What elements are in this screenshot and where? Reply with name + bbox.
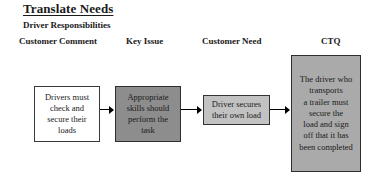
arrow-right-icon-issue-to-need: [181, 105, 203, 114]
column-header-customer-comment: Customer Comment: [19, 36, 97, 46]
arrow-right-icon-comment-to-issue: [100, 105, 115, 114]
flow-box-ctq: The driver who transports a trailer must…: [291, 55, 361, 172]
column-header-key-issue: Key Issue: [126, 36, 163, 46]
flow-box-ctq-text: The driver who transports a trailer must…: [295, 74, 357, 152]
column-header-customer-need: Customer Need: [202, 36, 262, 46]
flow-box-customer-comment: Drivers must check and secure their load…: [34, 86, 100, 142]
arrow-right-icon-need-to-ctq: [270, 105, 291, 114]
page-title: Translate Needs: [23, 1, 113, 17]
page-subtitle: Driver Responsibilities: [23, 20, 111, 30]
arrow-head: [197, 106, 202, 114]
diagram-canvas: Translate Needs Driver Responsibilities …: [0, 0, 384, 181]
arrow-head: [109, 106, 114, 114]
arrow-shaft: [270, 109, 286, 110]
arrow-head: [285, 106, 290, 114]
flow-box-key-issue: Appropriate skills should perform the ta…: [115, 86, 181, 142]
column-header-ctq: CTQ: [321, 36, 341, 46]
flow-box-customer-comment-text: Drivers must check and secure their load…: [38, 92, 96, 137]
flow-box-key-issue-text: Appropriate skills should perform the ta…: [119, 92, 177, 137]
flow-box-customer-need: Driver secures their own load: [203, 95, 270, 125]
arrow-shaft: [181, 109, 198, 110]
flow-box-customer-need-text: Driver secures their own load: [207, 99, 266, 121]
